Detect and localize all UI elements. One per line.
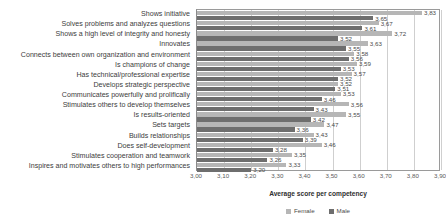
category-label: Builds relationships [0, 131, 193, 141]
x-tick-label: 3,50 [326, 172, 338, 180]
category-label: Innovates [0, 39, 193, 49]
x-tick-label: 3,60 [353, 172, 365, 180]
category-label: Inspires and motivates others to high pe… [0, 161, 193, 171]
bar-female [197, 11, 422, 15]
category-label: Stimulates others to develop themselves [0, 100, 193, 110]
category-label: Has technical/professional expertise [0, 70, 193, 80]
bar-value-label: 3,63 [370, 41, 382, 47]
bar-value-label: 3,43 [316, 132, 328, 138]
legend-swatch-icon [329, 209, 334, 214]
gridline [441, 10, 442, 170]
category-label: Shows initiative [0, 9, 193, 19]
bar-female [197, 72, 352, 76]
bar-value-label: 3,33 [288, 162, 300, 168]
bar-female [197, 143, 322, 147]
bar-female [197, 82, 338, 86]
legend-item-female[interactable]: Female [286, 208, 315, 214]
category-label: Sets targets [0, 120, 193, 130]
bar-group: 3,633,55 [197, 40, 439, 50]
bar-value-label: 3,56 [351, 102, 363, 108]
category-label: Is champions of change [0, 60, 193, 70]
bar-value-label: 3,53 [343, 91, 355, 97]
bar-value-label: 3,67 [381, 21, 393, 27]
bar-group: 3,473,36 [197, 121, 439, 131]
bar-female [197, 133, 314, 137]
bar-female [197, 21, 379, 25]
category-label: Solves problems and analyzes questions [0, 19, 193, 29]
category-label: Does self-development [0, 141, 193, 151]
x-tick-label: 3,80 [407, 172, 419, 180]
legend-item-male[interactable]: Male [329, 208, 350, 214]
category-label: Connects between own organization and en… [0, 50, 193, 60]
bar-group: 3,723,52 [197, 30, 439, 40]
category-axis-labels: Shows initiativeSolves problems and anal… [0, 9, 193, 171]
bar-group: 3,333,20 [197, 162, 439, 172]
bar-group: 3,573,52 [197, 71, 439, 81]
bar-value-label: 3,83 [424, 10, 436, 16]
legend-label: Female [294, 208, 315, 214]
bar-female [197, 41, 368, 45]
bar-female [197, 62, 357, 66]
chart-legend: FemaleMale [196, 208, 440, 214]
bar-group: 3,463,28 [197, 142, 439, 152]
bar-group: 3,583,56 [197, 51, 439, 61]
x-tick-label: 3,30 [271, 172, 283, 180]
legend-label: Male [337, 208, 350, 214]
bar-value-label: 3,47 [326, 122, 338, 128]
bar-group: 3,833,65 [197, 10, 439, 20]
bar-group: 3,523,51 [197, 81, 439, 91]
category-label: Develops strategic perspective [0, 80, 193, 90]
category-label: Is results-oriented [0, 110, 193, 120]
category-label: Communicates powerfully and prolifically [0, 90, 193, 100]
bar-value-label: 3,72 [394, 31, 406, 37]
bar-group: 3,433,39 [197, 132, 439, 142]
bar-group: 3,553,42 [197, 111, 439, 121]
category-label: Stimulates cooperation and teamwork [0, 151, 193, 161]
x-tick-label: 3,70 [380, 172, 392, 180]
bar-group: 3,353,26 [197, 152, 439, 162]
x-tick-label: 3,20 [244, 172, 256, 180]
bar-group: 3,563,43 [197, 101, 439, 111]
bar-value-label: 3,55 [348, 112, 360, 118]
x-tick-label: 3,10 [217, 172, 229, 180]
bar-value-label: 3,35 [294, 152, 306, 158]
bar-value-label: 3,59 [359, 61, 371, 67]
bar-group: 3,673,61 [197, 20, 439, 30]
x-axis-ticks: 3,003,103,203,303,403,503,603,703,803,90 [196, 172, 440, 182]
bar-female [197, 163, 286, 167]
x-tick-label: 3,40 [298, 172, 310, 180]
plot-area: 3,833,653,673,613,723,523,633,553,583,56… [196, 9, 440, 171]
bar-female [197, 52, 354, 56]
legend-swatch-icon [286, 209, 291, 214]
bar-value-label: 3,57 [354, 71, 366, 77]
bar-group: 3,533,46 [197, 91, 439, 101]
bar-value-label: 3,46 [324, 142, 336, 148]
bar-group: 3,593,53 [197, 61, 439, 71]
x-axis-title: Average score per competency [196, 190, 440, 197]
category-label: Shows a high level of integrity and hone… [0, 29, 193, 39]
x-tick-label: 3,90 [434, 172, 446, 180]
bar-female [197, 92, 341, 96]
x-tick-label: 3,00 [190, 172, 202, 180]
bar-female [197, 31, 392, 35]
